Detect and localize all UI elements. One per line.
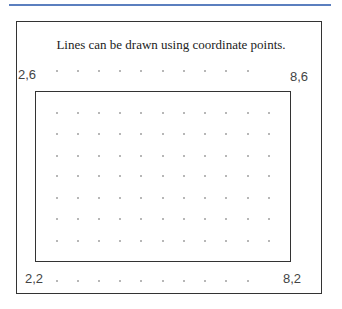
grid-dot bbox=[204, 280, 206, 282]
grid-dot bbox=[183, 70, 185, 72]
grid-dot bbox=[119, 280, 121, 282]
grid-dot bbox=[162, 70, 164, 72]
grid-dot bbox=[56, 280, 58, 282]
point-label-bottom-right: 8,2 bbox=[283, 271, 301, 286]
grid-dot bbox=[140, 70, 142, 72]
coordinate-rectangle bbox=[35, 91, 291, 262]
grid-dot bbox=[98, 280, 100, 282]
diagram-caption: Lines can be drawn using coordinate poin… bbox=[0, 37, 342, 53]
point-label-top-right: 8,6 bbox=[290, 69, 308, 84]
header-rule bbox=[9, 4, 331, 6]
grid-dot bbox=[183, 280, 185, 282]
grid-dot bbox=[140, 280, 142, 282]
grid-dot bbox=[77, 70, 79, 72]
grid-dot bbox=[77, 280, 79, 282]
point-label-top-left: 2,6 bbox=[18, 67, 36, 82]
grid-dot bbox=[56, 70, 58, 72]
grid-dot bbox=[225, 70, 227, 72]
grid-dot bbox=[204, 70, 206, 72]
grid-dot bbox=[119, 70, 121, 72]
grid-dot bbox=[247, 70, 249, 72]
grid-dot bbox=[225, 280, 227, 282]
point-label-bottom-left: 2,2 bbox=[25, 271, 43, 286]
grid-dot bbox=[162, 280, 164, 282]
grid-dot bbox=[247, 280, 249, 282]
grid-dot bbox=[98, 70, 100, 72]
